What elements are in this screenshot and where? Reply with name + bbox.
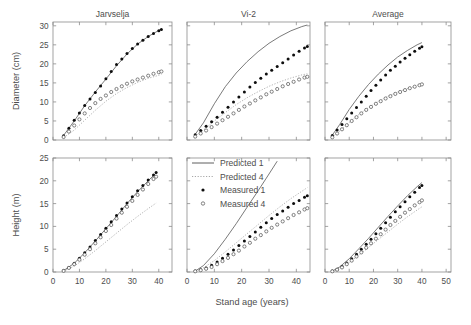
marker-measured-1 bbox=[276, 65, 279, 68]
marker-measured-4 bbox=[141, 188, 144, 191]
marker-measured-4 bbox=[394, 92, 397, 95]
marker-measured-4 bbox=[73, 124, 76, 127]
marker-measured-4 bbox=[331, 136, 334, 139]
panel-bottom-left: 0102030400510152025 bbox=[39, 154, 172, 286]
marker-measured-4 bbox=[232, 112, 235, 115]
marker-measured-1 bbox=[389, 216, 392, 219]
marker-measured-1 bbox=[336, 129, 339, 132]
marker-measured-1 bbox=[73, 119, 76, 122]
marker-measured-4 bbox=[259, 234, 262, 237]
y-tick-label: 10 bbox=[39, 98, 49, 107]
marker-measured-1 bbox=[83, 104, 86, 107]
panel-title: Average bbox=[372, 9, 404, 19]
marker-measured-4 bbox=[355, 255, 358, 258]
marker-measured-1 bbox=[136, 189, 139, 192]
marker-measured-1 bbox=[281, 61, 284, 64]
marker-measured-1 bbox=[126, 202, 129, 205]
marker-measured-4 bbox=[232, 253, 235, 256]
marker-measured-1 bbox=[341, 123, 344, 126]
panel-top-middle: Vi-2 bbox=[187, 9, 310, 140]
marker-measured-4 bbox=[306, 75, 309, 78]
y-tick-label: 15 bbox=[39, 200, 49, 209]
marker-measured-4 bbox=[365, 108, 368, 111]
marker-measured-4 bbox=[340, 128, 343, 131]
marker-measured-4 bbox=[369, 105, 372, 108]
marker-measured-4 bbox=[115, 87, 118, 90]
marker-measured-1 bbox=[384, 221, 387, 224]
marker-measured-4 bbox=[281, 220, 284, 223]
y-tick-label: 10 bbox=[39, 222, 49, 231]
marker-measured-4 bbox=[216, 263, 219, 266]
x-axis-label: Stand age (years) bbox=[215, 297, 288, 307]
x-tick-label: 20 bbox=[237, 277, 247, 286]
marker-measured-1 bbox=[254, 230, 257, 233]
marker-measured-4 bbox=[270, 90, 273, 93]
marker-measured-4 bbox=[194, 135, 197, 138]
marker-measured-1 bbox=[147, 35, 150, 38]
marker-measured-1 bbox=[365, 95, 368, 98]
marker-measured-4 bbox=[210, 265, 213, 268]
marker-measured-4 bbox=[131, 199, 134, 202]
marker-measured-4 bbox=[243, 245, 246, 248]
marker-measured-1 bbox=[157, 29, 160, 32]
marker-measured-4 bbox=[408, 208, 411, 211]
marker-measured-1 bbox=[408, 195, 411, 198]
marker-measured-1 bbox=[379, 227, 382, 230]
marker-measured-4 bbox=[413, 204, 416, 207]
marker-measured-1 bbox=[259, 226, 262, 229]
marker-measured-4 bbox=[336, 132, 339, 135]
legend-key-filled-circle bbox=[201, 188, 204, 191]
marker-measured-1 bbox=[379, 78, 382, 81]
marker-measured-1 bbox=[399, 205, 402, 208]
marker-measured-4 bbox=[292, 80, 295, 83]
panel-bottom-right: 01020304050 bbox=[323, 158, 451, 286]
marker-measured-1 bbox=[237, 244, 240, 247]
marker-measured-1 bbox=[136, 43, 139, 46]
marker-measured-1 bbox=[270, 217, 273, 220]
marker-measured-4 bbox=[399, 215, 402, 218]
marker-measured-4 bbox=[287, 217, 290, 220]
marker-measured-4 bbox=[306, 207, 309, 210]
marker-measured-1 bbox=[99, 84, 102, 87]
marker-measured-4 bbox=[350, 119, 353, 122]
marker-measured-1 bbox=[370, 89, 373, 92]
marker-measured-1 bbox=[384, 73, 387, 76]
marker-measured-4 bbox=[67, 130, 70, 133]
marker-measured-4 bbox=[384, 97, 387, 100]
marker-measured-4 bbox=[160, 70, 163, 73]
marker-measured-1 bbox=[115, 214, 118, 217]
marker-measured-4 bbox=[374, 237, 377, 240]
marker-measured-1 bbox=[276, 213, 279, 216]
marker-measured-4 bbox=[205, 267, 208, 270]
marker-measured-4 bbox=[136, 78, 139, 81]
x-tick-label: 0 bbox=[323, 277, 328, 286]
marker-measured-4 bbox=[281, 85, 284, 88]
marker-measured-4 bbox=[259, 96, 262, 99]
marker-measured-4 bbox=[340, 266, 343, 269]
panel-frame bbox=[53, 22, 172, 140]
marker-measured-1 bbox=[78, 112, 81, 115]
x-tick-label: 20 bbox=[101, 277, 111, 286]
marker-measured-1 bbox=[160, 28, 163, 31]
marker-measured-4 bbox=[94, 102, 97, 105]
x-tick-label: 40 bbox=[292, 277, 302, 286]
marker-measured-4 bbox=[287, 82, 290, 85]
marker-measured-4 bbox=[221, 119, 224, 122]
marker-measured-1 bbox=[360, 248, 363, 251]
marker-measured-4 bbox=[120, 85, 123, 88]
panel-frame bbox=[325, 22, 451, 140]
marker-measured-4 bbox=[226, 256, 229, 259]
marker-measured-1 bbox=[115, 63, 118, 66]
y-tick-label: 30 bbox=[39, 22, 49, 31]
panel-title: Jarvselja bbox=[96, 9, 130, 19]
x-tick-label: 0 bbox=[51, 277, 56, 286]
legend-label: Measured 1 bbox=[220, 185, 266, 195]
x-tick-label: 10 bbox=[345, 277, 355, 286]
marker-measured-1 bbox=[248, 86, 251, 89]
y-axis-label-top: Diameter (cm) bbox=[11, 52, 21, 110]
panel-frame bbox=[325, 158, 451, 272]
marker-measured-4 bbox=[88, 248, 91, 251]
marker-measured-4 bbox=[237, 249, 240, 252]
marker-measured-1 bbox=[232, 249, 235, 252]
x-tick-label: 40 bbox=[417, 277, 427, 286]
